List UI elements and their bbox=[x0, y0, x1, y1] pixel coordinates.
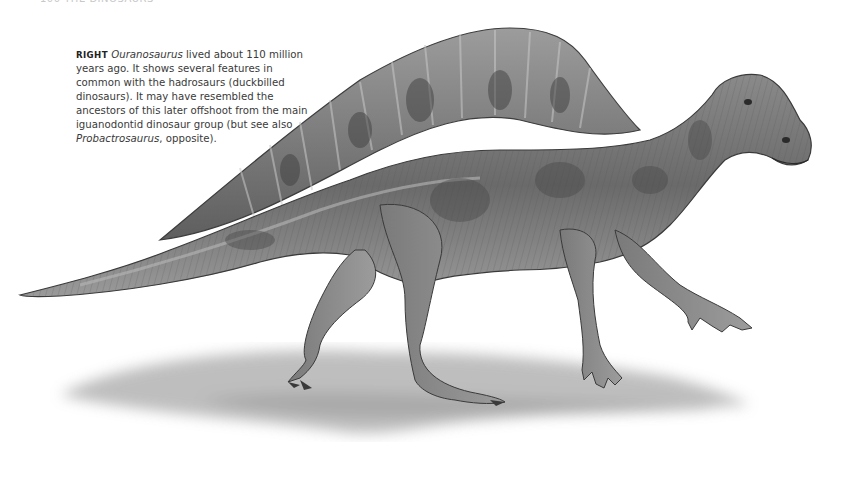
caption-body: lived about 110 million years ago. It sh… bbox=[76, 49, 308, 130]
caption-kicker: RIGHT bbox=[76, 50, 108, 60]
figure-caption: RIGHT Ouranosaurus lived about 110 milli… bbox=[76, 48, 316, 146]
book-page: 100 THE DINOSAURS bbox=[0, 0, 842, 479]
ground-shadow bbox=[60, 350, 750, 433]
fore-limb-far bbox=[615, 230, 752, 332]
eye bbox=[744, 99, 752, 105]
caption-tail: , opposite). bbox=[159, 133, 217, 144]
caption-genus: Ouranosaurus bbox=[111, 49, 183, 60]
caption-genus-2: Probactrosaurus bbox=[76, 133, 159, 144]
